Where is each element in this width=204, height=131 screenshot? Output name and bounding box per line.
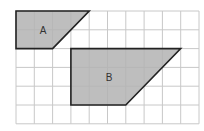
shapes: AB	[16, 11, 181, 105]
shape-label-a: A	[40, 25, 47, 36]
shape-label-b: B	[106, 72, 113, 83]
shape-b	[71, 49, 181, 105]
grid-diagram: AB	[0, 0, 204, 131]
